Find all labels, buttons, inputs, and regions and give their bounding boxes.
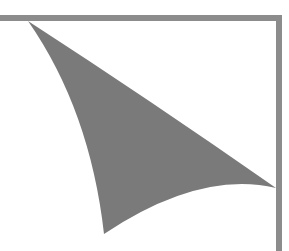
- diagram-svg: [0, 0, 289, 251]
- frame-right-border: [276, 15, 282, 251]
- frame-top-border: [0, 15, 282, 21]
